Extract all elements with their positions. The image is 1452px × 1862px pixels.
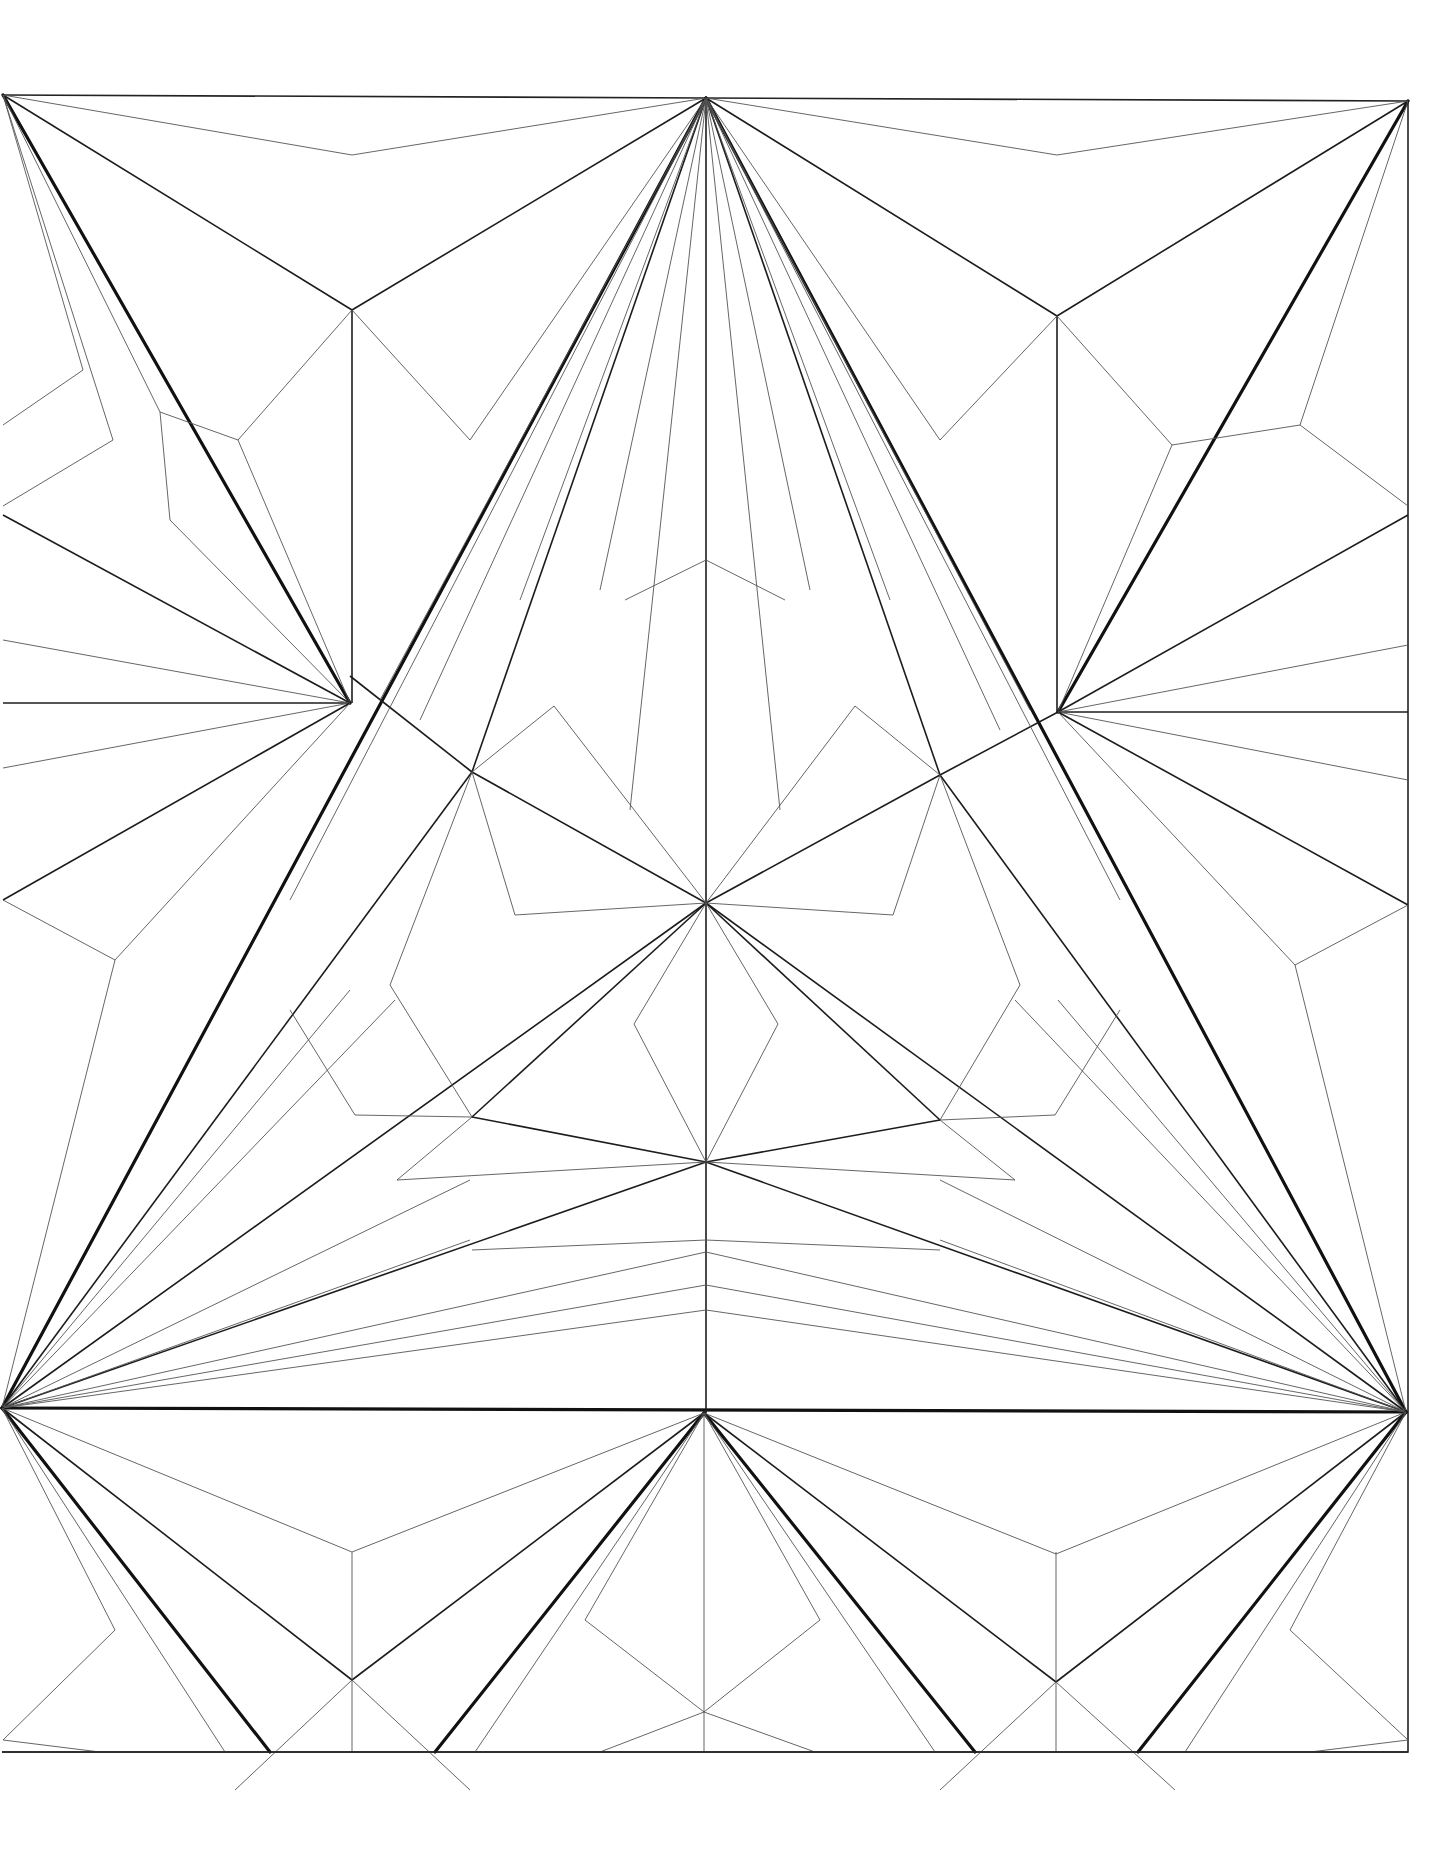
crease-pattern-svg <box>0 0 1452 1862</box>
frame <box>2 95 1408 1752</box>
center-star <box>2 98 1406 1413</box>
apex-fan <box>290 98 1120 900</box>
main-triangle <box>2 98 1406 1412</box>
crease-pattern-canvas <box>0 0 1452 1862</box>
base-fans <box>2 990 1406 1412</box>
bottom-tiles <box>2 1408 1408 1790</box>
inner-kites <box>290 560 1120 1250</box>
